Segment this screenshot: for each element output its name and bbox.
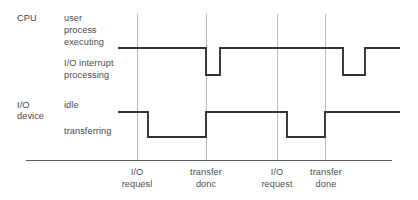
row-label-cpu: CPU (17, 13, 37, 25)
io-state-transferring: transferring (64, 126, 111, 138)
cpu-state-executing-line1: user (64, 13, 82, 25)
event-label-1-line2: requesl (107, 179, 167, 191)
event-label-2-line1: transfer (176, 167, 236, 179)
row-label-io-device-line2: device (17, 111, 44, 123)
cpu-waveform (118, 48, 400, 75)
cpu-state-executing-line3: executing (64, 37, 104, 49)
event-label-4-line1: transfer (296, 167, 356, 179)
event-label-1-line1: I/O (107, 167, 167, 179)
event-label-2-line2: donc (176, 179, 236, 191)
event-gridlines (138, 14, 326, 161)
io-device-waveform (118, 112, 400, 137)
cpu-state-interrupt-line2: processing (64, 70, 109, 82)
io-state-idle: idle (64, 100, 79, 112)
cpu-state-interrupt-line1: I/O interrupt (64, 58, 114, 70)
row-label-io-device-line1: I/O (17, 100, 30, 112)
io-interrupt-timing-diagram: CPU I/O device user process executing I/… (0, 0, 418, 200)
event-label-4-line2: done (296, 179, 356, 191)
cpu-state-executing-line2: process (64, 25, 97, 37)
